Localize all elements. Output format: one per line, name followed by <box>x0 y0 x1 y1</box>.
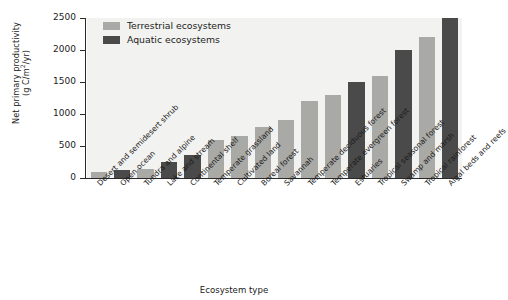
x-axis-title: Ecosystem type <box>0 285 468 295</box>
x-axis-tick-label: Desert and semidesert shrub <box>96 103 180 187</box>
